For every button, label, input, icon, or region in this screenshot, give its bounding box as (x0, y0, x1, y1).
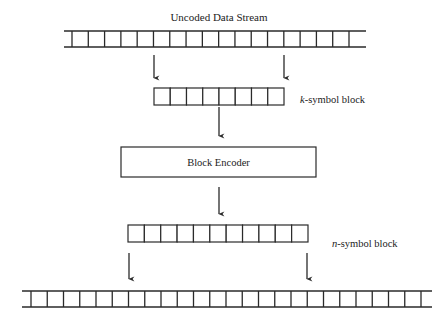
symbol-cell (170, 88, 186, 105)
symbol-cell (144, 225, 160, 242)
k-symbol-block (154, 88, 284, 105)
symbol-cell (235, 88, 251, 105)
block-coding-diagram: Uncoded Data Stream k-symbol block Block… (0, 0, 448, 328)
block-encoder: Block Encoder (121, 147, 316, 177)
uncoded-stream-title: Uncoded Data Stream (170, 11, 268, 23)
symbol-cell (154, 88, 170, 105)
symbol-cell (177, 225, 193, 242)
symbol-cell (259, 225, 275, 242)
uncoded-data-stream (64, 31, 366, 47)
merge-arrows (129, 253, 307, 279)
coded-data-stream (22, 291, 432, 307)
k-symbol-block-label: k-symbol block (300, 94, 366, 105)
symbol-cell (210, 225, 226, 242)
symbol-cell (292, 225, 308, 242)
symbol-cell (203, 88, 219, 105)
block-encoder-label: Block Encoder (187, 157, 250, 168)
n-symbol-block (128, 225, 308, 242)
symbol-cell (252, 88, 268, 105)
symbol-cell (275, 225, 291, 242)
symbol-cell (219, 88, 235, 105)
symbol-cell (161, 225, 177, 242)
symbol-cell (268, 88, 284, 105)
symbol-cell (128, 225, 144, 242)
symbol-cell (243, 225, 259, 242)
split-arrows (154, 55, 284, 78)
symbol-cell (187, 88, 203, 105)
symbol-cell (193, 225, 209, 242)
symbol-cell (226, 225, 242, 242)
n-symbol-block-label: n-symbol block (332, 238, 398, 249)
